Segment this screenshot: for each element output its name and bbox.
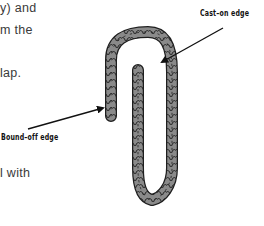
bound-off-arrow <box>28 108 103 129</box>
knitted-strand <box>111 32 172 200</box>
bound-off-edge-label: Bound–off edge <box>1 132 58 142</box>
knitted-strip-diagram <box>0 0 264 226</box>
cast-on-edge-label: Cast–on edge <box>200 8 249 18</box>
